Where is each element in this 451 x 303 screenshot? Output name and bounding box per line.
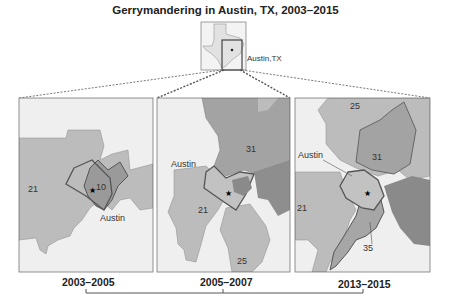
district-label-25: 25 xyxy=(237,256,247,266)
austin-star-icon: ★ xyxy=(364,189,371,198)
map-panel-2013-2015: 25 31 21 35 Austin ★ xyxy=(295,98,430,272)
district-label-25: 25 xyxy=(350,101,360,111)
austin-label: Austin xyxy=(171,159,196,169)
district-label-31: 31 xyxy=(246,144,256,154)
district-label-21: 21 xyxy=(198,205,208,215)
period-label-2013-2015: 2013–2015 xyxy=(338,278,391,290)
period-label-2005-2007: 2005–2007 xyxy=(200,276,253,288)
map-panel-2005-2007: 31 21 25 Austin ★ xyxy=(157,98,290,272)
district-label-21: 21 xyxy=(28,184,38,194)
austin-star-icon: ★ xyxy=(225,189,232,198)
zoom-connectors xyxy=(19,70,430,98)
district-label-10: 10 xyxy=(96,182,106,192)
district-label-31: 31 xyxy=(372,152,382,162)
austin-label: Austin xyxy=(100,213,125,223)
district-label-35: 35 xyxy=(363,243,373,253)
gerrymandering-diagram: Austin,TX 21 10 Austin ★ xyxy=(0,0,451,303)
map-panel-2003-2005: 21 10 Austin ★ xyxy=(19,98,153,272)
austin-star-icon: ★ xyxy=(89,186,96,195)
inset-austin-label: Austin,TX xyxy=(247,54,282,63)
district-label-21: 21 xyxy=(297,203,307,213)
austin-dot-icon xyxy=(231,49,234,52)
timeline-bracket xyxy=(86,289,363,293)
texas-inset-map: Austin,TX xyxy=(201,22,282,70)
austin-label: Austin xyxy=(298,150,323,160)
period-label-2003-2005: 2003–2005 xyxy=(62,276,115,288)
